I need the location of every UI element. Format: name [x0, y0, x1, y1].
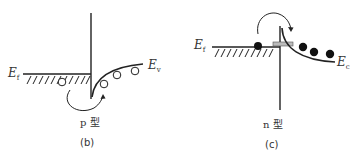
hole-2 — [113, 71, 121, 79]
p-type-band-diagram — [0, 0, 177, 160]
transfer-arrow — [67, 90, 103, 111]
n-type-band-diagram — [177, 0, 354, 160]
conduction-band-label: Ec — [337, 56, 350, 71]
type-label-n: n 型 — [263, 120, 283, 130]
electron-2 — [310, 48, 318, 56]
metal-stub — [273, 42, 293, 46]
electron-3 — [326, 50, 334, 58]
type-label-p: p 型 — [80, 118, 100, 128]
panel-c-n-type: Ef Ec n 型 (c) — [177, 0, 354, 160]
hole-left — [58, 78, 66, 86]
caption-b: (b) — [80, 138, 94, 148]
hole-1 — [100, 80, 108, 88]
electron-left — [254, 42, 262, 50]
caption-c: (c) — [265, 140, 278, 150]
arrow-head — [288, 27, 294, 32]
fermi-level-label: Ef — [8, 67, 19, 82]
metal-hatching — [215, 49, 273, 57]
transfer-arrow — [258, 13, 291, 34]
electron-1 — [299, 43, 307, 51]
fermi-level-label: Ef — [194, 39, 205, 54]
arrow-head — [101, 94, 106, 99]
panel-b-p-type: Ef Ev p 型 (b) — [0, 0, 177, 160]
valence-band-label: Ev — [148, 59, 161, 74]
hole-3 — [131, 67, 139, 75]
